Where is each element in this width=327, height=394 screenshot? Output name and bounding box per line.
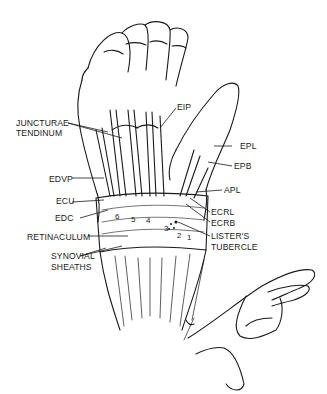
- label-juncturae-tendinum-line1: JUNCTURAE: [16, 118, 69, 128]
- label-ecu: ECU: [56, 196, 74, 206]
- label-epl: EPL: [240, 141, 257, 151]
- label-synovial-sheaths-line1: SYNOVIAL: [51, 251, 95, 261]
- label-edvp: EDVP: [49, 174, 73, 184]
- label-retinaculum: RETINACULUM: [27, 232, 90, 242]
- label-listers-tubercle-line2: TUBERCLE: [211, 242, 258, 252]
- compartment-2: 2: [177, 231, 181, 240]
- compartment-5: 5: [131, 215, 135, 224]
- hand-wrist-drawing: [0, 0, 327, 394]
- anatomical-figure: EIP JUNCTURAE TENDINUM EPL EPB EDVP APL …: [0, 0, 327, 394]
- compartment-1: 1: [187, 233, 191, 242]
- label-synovial-sheaths-line2: SHEATHS: [51, 262, 92, 272]
- compartment-6: 6: [115, 212, 119, 221]
- label-eip: EIP: [177, 102, 191, 112]
- label-listers-tubercle-line1: LISTER'S: [211, 231, 249, 241]
- label-juncturae-tendinum-line2: TENDINUM: [16, 128, 62, 138]
- label-epb: EPB: [234, 161, 252, 171]
- listers-tubercle-dots: [168, 220, 178, 230]
- compartment-3: 3: [164, 224, 168, 233]
- label-ecrb: ECRB: [211, 218, 235, 228]
- compartment-4: 4: [146, 216, 150, 225]
- label-ecrl: ECRL: [211, 207, 234, 217]
- label-apl: APL: [224, 185, 241, 195]
- label-edc: EDC: [55, 213, 73, 223]
